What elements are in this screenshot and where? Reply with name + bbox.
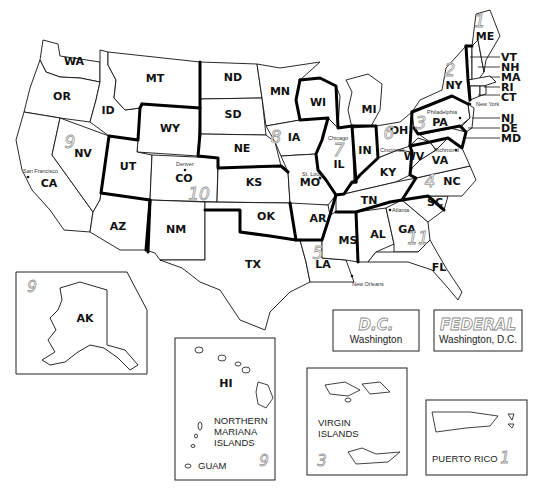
city-label: Atlanta [392,207,410,213]
state-ct[interactable] [470,86,480,100]
circuit-number: 9 [27,278,37,296]
state-label: HI [219,377,232,390]
city-label: Richmond [434,147,459,153]
circuit-number: 3 [416,113,427,133]
circuit-number: 5 [313,243,324,263]
city-label: New York [476,101,499,107]
dc-subtitle: Washington [350,334,402,345]
federal-subtitle: Washington, D.C. [439,334,517,345]
territory-label: ISLANDS [318,428,359,439]
hawaii-inset: HI NORTHERN MARIANA ISLANDS GUAM 9 [175,338,275,480]
circuit-number: 4 [425,171,436,191]
state-label: FL [432,261,447,274]
state-mi[interactable] [346,74,382,128]
territory-label: GUAM [198,460,227,471]
dc-title: D.C. [359,316,394,334]
state-label: CA [41,177,58,190]
state-label: NV [74,147,92,160]
state-label: NM [166,223,186,236]
city-label: San Francisco [23,168,58,174]
city-label: Cincinnati [380,147,404,153]
state-label: WA [64,55,85,68]
circuit-map: WA OR CA NV ID MT WY UT CO AZ NM ND SD N… [0,0,539,490]
federal-circuit-box: FEDERAL Washington, D.C. [434,310,522,351]
state-label: VA [432,154,449,167]
state-label: MI [361,103,376,116]
territory-label: VIRGIN [318,417,351,428]
state-label: MS [339,234,358,247]
state-label: NC [443,175,460,188]
state-label: AL [370,228,386,241]
city-label: Denver [176,161,194,167]
state-label: CT [501,91,517,104]
city-label: Philadelphia [427,109,458,115]
state-ri[interactable] [480,86,486,96]
puerto-rico-inset: PUERTO RICO 1 [426,400,527,475]
alaska-inset: 9 AK [16,272,147,374]
circuit-number: 11 [407,228,429,248]
state-label: ID [101,104,114,117]
territory-label: MARIANA [214,426,258,437]
state-label: NE [234,142,251,155]
state-label: UT [120,160,137,173]
state-label: IA [288,131,301,144]
state-label: SC [427,196,443,209]
state-label: ND [224,71,242,84]
state-label: MO [300,176,320,189]
state-label: OR [53,90,71,103]
circuit-number: 9 [259,452,269,470]
city-label: New Orleans [352,281,384,287]
state-label: NY [445,79,463,92]
territory-label: NORTHERN [214,415,268,426]
state-label: MN [270,85,290,98]
federal-title: FEDERAL [440,316,516,334]
circuit-number: 3 [317,452,327,470]
state-label: PA [432,116,448,129]
dc-circuit-box: D.C. Washington [333,310,419,351]
state-label: SD [224,108,241,121]
state-label: OK [257,210,275,223]
circuit-number: 1 [475,11,486,31]
state-label: KS [246,176,263,189]
state-label: KY [380,166,398,179]
state-label: MD [501,132,521,145]
state-label: TN [361,194,378,207]
circuit-number: 9 [65,132,76,152]
state-label: AR [310,212,328,225]
virgin-islands-inset: VIRGIN ISLANDS 3 [307,368,407,475]
state-label: IN [358,144,371,157]
city-label: St. Louis [302,171,324,177]
state-label: WY [160,122,181,135]
state-label: WV [404,150,425,163]
state-label: MT [146,72,165,85]
circuit-number: 7 [334,140,345,160]
circuit-number: 10 [188,184,210,204]
state-label: AK [76,312,94,325]
circuit-number: 8 [271,127,282,147]
state-label: TX [245,258,262,271]
circuit-number: 1 [500,449,510,467]
territory-label: PUERTO RICO [432,453,498,464]
circuit-number: 2 [445,60,456,80]
state-label: ME [476,30,494,43]
circuit-number: 6 [384,123,395,143]
territory-label: ISLANDS [214,437,255,448]
state-label: WI [310,96,326,109]
state-label: AZ [110,220,127,233]
